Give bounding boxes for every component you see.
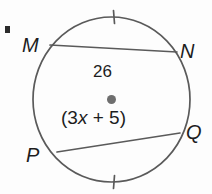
center-dot	[107, 95, 116, 104]
tick-mark-top-arc	[114, 11, 115, 24]
vertex-label-n: N	[180, 41, 194, 61]
vertex-label-q: Q	[186, 122, 202, 142]
vertex-label-p: P	[26, 145, 39, 165]
chord-pq-expression-label: (3x + 5)	[61, 108, 126, 127]
chord-mn-measure-label: 26	[93, 63, 112, 80]
chord-mn	[50, 45, 177, 52]
tick-mark-bottom-arc	[114, 176, 115, 189]
vertex-label-m: M	[22, 35, 39, 55]
expression-open-part: (3	[61, 107, 78, 128]
chord-pq	[57, 133, 180, 152]
geometry-figure: M N Q P 26 (3x + 5)	[0, 0, 212, 194]
expression-rest-part: + 5)	[87, 107, 126, 128]
expression-variable: x	[78, 107, 88, 128]
